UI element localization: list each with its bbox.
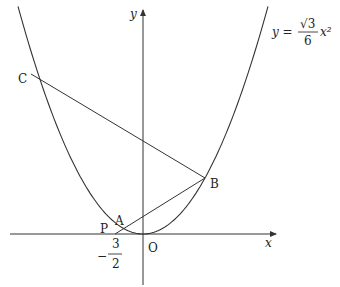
equation-numerator: √3 bbox=[300, 17, 315, 31]
y-axis-label: y bbox=[129, 7, 137, 21]
tick-label-neg-three-halves: − 3 2 bbox=[97, 237, 122, 271]
point-label-b: B bbox=[210, 177, 219, 191]
tick-numerator: 3 bbox=[112, 237, 120, 251]
origin-label: O bbox=[148, 241, 158, 255]
equation-denominator: 6 bbox=[304, 34, 312, 48]
curve-equation: y = √3 6 x² bbox=[271, 17, 332, 48]
segment-pb bbox=[115, 178, 205, 234]
x-axis-label: x bbox=[265, 236, 272, 250]
equation-rhs: x² bbox=[320, 25, 332, 39]
segment-pc bbox=[31, 74, 115, 234]
tick-denominator: 2 bbox=[112, 257, 120, 271]
point-label-a: A bbox=[114, 214, 124, 228]
point-label-c: C bbox=[18, 72, 27, 86]
equation-lhs: y = bbox=[271, 25, 293, 39]
tick-sign: − bbox=[97, 249, 107, 263]
point-label-p: P bbox=[100, 222, 108, 236]
parabola-diagram: C B A P O x y − 3 2 y = √3 6 x² bbox=[0, 0, 340, 287]
